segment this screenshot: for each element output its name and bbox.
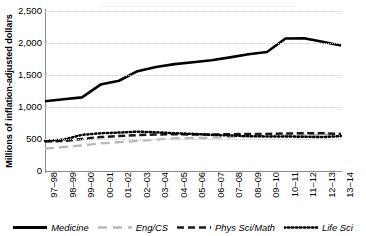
dotted-black-line — [284, 223, 318, 232]
solid-black-line — [13, 223, 47, 232]
y-tick-label: 1,000 — [16, 102, 42, 112]
x-tick-label: 13–14 — [345, 172, 355, 212]
y-tick-label: 0 — [16, 166, 42, 176]
x-tick-label: 11–12 — [308, 172, 318, 212]
legend-label: Phys Sci/Math — [215, 222, 275, 233]
gridline — [45, 43, 341, 44]
gridline — [45, 107, 341, 108]
y-tick-label: 2,000 — [16, 38, 42, 48]
dashed-gray-line — [98, 223, 132, 232]
legend-item-life-sci[interactable]: Life Sci — [284, 222, 353, 233]
top-rule-divider — [100, 6, 296, 7]
x-tick-label: 10–11 — [290, 172, 300, 212]
x-tick-label: 02–03 — [142, 172, 152, 212]
legend-label: Medicine — [51, 222, 89, 233]
x-tick-label: 03–04 — [160, 172, 170, 212]
legend-label: Eng/CS — [136, 222, 168, 233]
x-tick-label: 08–09 — [253, 172, 263, 212]
y-tick-label: 500 — [16, 134, 42, 144]
gridline — [45, 139, 341, 140]
x-tick-label: 04–05 — [179, 172, 189, 212]
plot-area — [45, 11, 341, 171]
chart-container: Millions of inflation-adjusted dollars 0… — [0, 0, 366, 236]
x-tick-label: 12–13 — [327, 172, 337, 212]
legend-item-phys-sci-math[interactable]: Phys Sci/Math — [177, 222, 275, 233]
x-tick-label: 09–10 — [271, 172, 281, 212]
y-axis-tick-labels: 05001,0001,5002,0002,500 — [14, 0, 42, 236]
x-tick-label: 97–98 — [49, 172, 59, 212]
series-line-medicine — [45, 38, 341, 101]
x-tick-label: 98–99 — [68, 172, 78, 212]
gridline — [45, 75, 341, 76]
x-tick-label: 00–01 — [105, 172, 115, 212]
x-tick-label: 05–06 — [197, 172, 207, 212]
x-tick-label: 06–07 — [216, 172, 226, 212]
legend-label: Life Sci — [322, 222, 353, 233]
dashed-black-line — [177, 223, 211, 232]
y-tick-label: 2,500 — [16, 6, 42, 16]
x-tick-label: 99–00 — [86, 172, 96, 212]
x-tick-label: 07–08 — [234, 172, 244, 212]
gridline — [45, 11, 341, 12]
x-tick-label: 01–02 — [123, 172, 133, 212]
series-svg — [45, 11, 341, 171]
legend-item-medicine[interactable]: Medicine — [13, 222, 89, 233]
chart-legend: MedicineEng/CSPhys Sci/MathLife Sci — [0, 219, 366, 235]
legend-item-eng-cs[interactable]: Eng/CS — [98, 222, 168, 233]
x-axis-tick-labels: 97–9898–9999–0000–0101–0202–0303–0404–05… — [45, 174, 341, 214]
y-tick-label: 1,500 — [16, 70, 42, 80]
